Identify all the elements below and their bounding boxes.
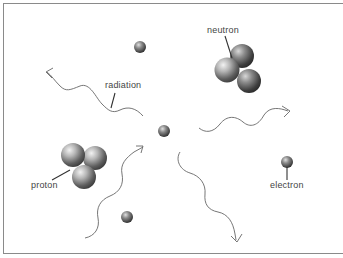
electron-sphere [281, 156, 293, 168]
arrowhead-icon [282, 106, 290, 117]
particle-small-center [158, 125, 170, 137]
radiation-leader-line [111, 93, 115, 108]
arrowhead-icon [231, 234, 242, 242]
particle-small-bottom [121, 211, 133, 223]
radiation-wave-lower [178, 152, 242, 242]
label-radiation: radiation [105, 81, 141, 90]
label-electron: electron [270, 181, 304, 190]
neutron-cluster [215, 44, 262, 93]
particle-small-top [134, 41, 146, 53]
arrowhead-icon [136, 146, 143, 153]
neutron-leader-line [225, 36, 232, 58]
proton-cluster [61, 143, 107, 189]
label-proton: proton [31, 181, 58, 190]
radiation-wave-right [199, 106, 290, 131]
proton-leader-line [52, 170, 70, 180]
radiation-wave-upper-left [46, 68, 143, 116]
label-neutron: neutron [207, 26, 239, 35]
